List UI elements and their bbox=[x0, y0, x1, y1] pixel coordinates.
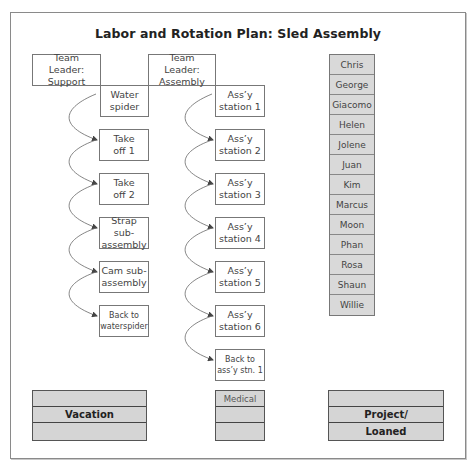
team-member: Giacomo bbox=[330, 95, 374, 115]
project-loaned-row: Project/ bbox=[329, 407, 443, 423]
rotation-arrow bbox=[185, 228, 213, 272]
rotation-arrow bbox=[185, 94, 213, 140]
team-member: Willie bbox=[330, 295, 374, 315]
vacation-row bbox=[33, 423, 146, 439]
medical-row bbox=[216, 407, 264, 423]
team-member: Moon bbox=[330, 215, 374, 235]
team-member: Kim bbox=[330, 175, 374, 195]
team-member: Jolene bbox=[330, 135, 374, 155]
medical-group: Medical bbox=[215, 390, 265, 441]
project-loaned-group: Project/ Loaned bbox=[328, 390, 444, 441]
rotation-arrow bbox=[185, 140, 213, 184]
rotation-arrow bbox=[69, 184, 97, 228]
project-loaned-row bbox=[329, 391, 443, 407]
medical-row: Medical bbox=[216, 391, 264, 407]
team-member: Helen bbox=[330, 115, 374, 135]
team-members-list: Chris George Giacomo Helen Jolene Juan K… bbox=[329, 54, 375, 316]
rotation-arrow bbox=[185, 184, 213, 228]
team-member: Shaun bbox=[330, 275, 374, 295]
rotation-arrow bbox=[69, 140, 97, 184]
rotation-arrow bbox=[69, 228, 97, 272]
team-member: Chris bbox=[330, 55, 374, 75]
rotation-arrow bbox=[69, 272, 97, 316]
project-loaned-row: Loaned bbox=[329, 423, 443, 439]
team-member: Juan bbox=[330, 155, 374, 175]
vacation-group: Vacation bbox=[32, 390, 147, 441]
team-member: Rosa bbox=[330, 255, 374, 275]
team-member: George bbox=[330, 75, 374, 95]
vacation-row bbox=[33, 391, 146, 407]
medical-row bbox=[216, 423, 264, 439]
team-member: Phan bbox=[330, 235, 374, 255]
rotation-arrow bbox=[185, 316, 213, 360]
vacation-row: Vacation bbox=[33, 407, 146, 423]
team-member: Marcus bbox=[330, 195, 374, 215]
rotation-arrow bbox=[185, 272, 213, 316]
rotation-arrow bbox=[69, 94, 97, 140]
